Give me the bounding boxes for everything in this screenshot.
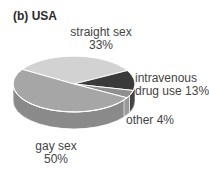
label-iv-value: drug use 13% [135, 85, 209, 98]
label-gay-sex: gay sex 50% [31, 140, 81, 166]
label-other: other 4% [126, 114, 174, 127]
label-straight-sex: straight sex 33% [66, 26, 136, 52]
label-straight-sex-value: 33% [66, 39, 136, 52]
label-iv-drug-use: intravenous drug use 13% [135, 72, 209, 98]
label-gay-sex-value: 50% [31, 153, 81, 166]
